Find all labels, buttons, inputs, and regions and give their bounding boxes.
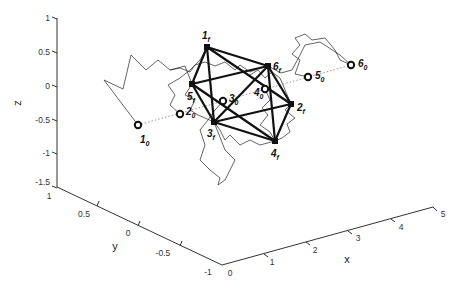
label-5-final: 5f	[187, 91, 196, 104]
label-2-final: 2f	[296, 102, 306, 115]
x-tick-label: 1	[270, 257, 275, 267]
z-tick-label: 0	[45, 81, 50, 91]
marker-5-initial	[305, 74, 311, 80]
z-tick-label: 0.5	[38, 47, 50, 57]
marker-5-final	[189, 81, 195, 87]
y-tick-label: 1	[47, 191, 52, 201]
marker-1-final	[204, 44, 210, 50]
z-tick-label: -1	[42, 148, 50, 158]
y-axis: 1 0.5 0 -0.5 -1 y	[47, 187, 222, 277]
z-tick-label: 1	[45, 13, 50, 23]
marker-3-initial	[220, 98, 226, 104]
label-2-initial: 20	[185, 106, 196, 119]
marker-3-final	[211, 119, 217, 125]
marker-2-initial	[177, 111, 183, 117]
y-axis-label: y	[112, 240, 118, 252]
z-axis: 1 0.5 0 -0.5 -1 -1.5 z	[11, 13, 57, 188]
label-6-final: 6f	[273, 61, 282, 74]
3d-plot: 1 0.5 0 -0.5 -1 -1.5 z 1 0.5 0 -0.5 -1 y…	[0, 0, 457, 288]
marker-4-initial	[262, 86, 268, 92]
y-tick-label: -1	[204, 267, 212, 277]
x-axis: 0 1 2 3 4 5 x	[222, 207, 446, 278]
x-tick-label: 4	[399, 222, 404, 232]
marker-4-final	[272, 138, 278, 144]
x-tick-label: 0	[228, 268, 233, 278]
label-1-initial: 10	[140, 134, 150, 147]
y-tick-label: 0.5	[78, 209, 90, 219]
z-axis-label: z	[11, 100, 23, 106]
x-tick-label: 3	[356, 233, 361, 243]
x-tick-label: 2	[313, 245, 318, 255]
y-tick-label: -0.5	[156, 248, 171, 258]
label-6-initial: 60	[358, 58, 368, 71]
label-3-final: 3f	[207, 128, 216, 141]
marker-6-initial	[348, 62, 354, 68]
marker-1-initial	[135, 122, 141, 128]
z-tick-label: -0.5	[35, 115, 50, 125]
z-tick-label: -1.5	[35, 177, 50, 187]
label-1-final: 1f	[202, 30, 211, 43]
marker-6-final	[265, 63, 271, 69]
label-4-final: 4f	[270, 148, 280, 161]
x-tick-label: 5	[441, 209, 446, 219]
y-tick-label: 0	[126, 228, 131, 238]
label-5-initial: 50	[315, 70, 325, 83]
marker-2-final	[288, 101, 294, 107]
x-axis-label: x	[344, 253, 350, 265]
